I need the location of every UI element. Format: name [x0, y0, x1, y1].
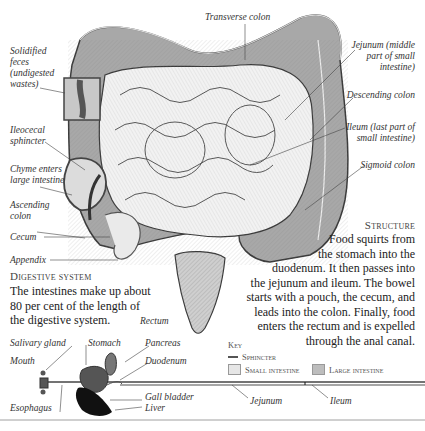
label-ascending-colon: Ascending colon [10, 200, 50, 222]
label-solidified-feces: Solidified feces (undigested wastes) [10, 46, 54, 90]
label-mouth: Mouth [10, 356, 35, 367]
label-gall-bladder: Gall bladder [145, 392, 194, 403]
label-stomach: Stomach [88, 338, 121, 349]
label-ileum-top: Ileum (last part of small intestine) [346, 122, 415, 144]
label-transverse-colon: Transverse colon [205, 12, 270, 23]
label-liver: Liver [145, 403, 165, 414]
digestive-system-heading: Digestive system [10, 270, 91, 282]
rectum [175, 252, 225, 334]
structure-heading: Structure [365, 219, 415, 231]
key-item-large-intestine: Large intestine [312, 364, 383, 375]
structure-text: Food squirts from the stomach into the d… [246, 232, 415, 348]
label-cecum: Cecum [10, 232, 36, 243]
label-duodenum: Duodenum [145, 356, 187, 367]
label-pancreas: Pancreas [145, 338, 181, 349]
label-jejunum: Jejunum [250, 396, 282, 407]
small-intestine-swatch [228, 364, 241, 375]
label-ileocecal-sphincter: Ileocecal sphincter [10, 125, 45, 147]
sphincter-line-swatch [228, 356, 238, 358]
small-intestine [99, 65, 313, 237]
large-intestine-swatch [312, 364, 325, 375]
digestive-system-text: The intestines make up about 80 per cent… [10, 284, 151, 328]
label-esophagus: Esophagus [10, 403, 52, 414]
label-appendix: Appendix [10, 255, 46, 266]
label-salivary-gland: Salivary gland [10, 338, 66, 349]
label-chyme-enters: Chyme enters large intestine [10, 164, 64, 186]
label-descending-colon: Descending colon [347, 90, 415, 101]
label-jejunum-top: Jejunum (middle part of small intestine) [351, 40, 415, 73]
label-ileum: Ileum [330, 396, 352, 407]
digestive-tract-diagram [0, 345, 425, 420]
label-sigmoid-colon: Sigmoid colon [360, 160, 415, 171]
key-item-small-intestine: Small intestine [228, 364, 300, 375]
key-item-sphincter: Sphincter [228, 352, 276, 362]
key-heading: Key [228, 340, 242, 350]
